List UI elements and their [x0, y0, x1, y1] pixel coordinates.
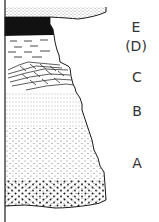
layer-label-a: A — [132, 156, 142, 170]
layer-c — [5, 62, 76, 92]
layer-label-e: E — [132, 20, 141, 34]
layer-d — [5, 35, 60, 64]
layer-a — [5, 128, 106, 208]
layer-d-dark — [5, 17, 54, 36]
layer-b — [5, 92, 88, 128]
layer-label-b: B — [132, 104, 142, 118]
layer-label-c: C — [132, 70, 142, 84]
layer-label-d: (D) — [125, 39, 147, 53]
